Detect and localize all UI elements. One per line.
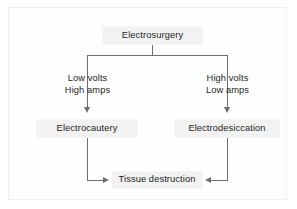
- node-electrodesiccation-label: Electrodesiccation: [188, 124, 265, 133]
- arrowhead-right-branch-icon: [224, 107, 230, 113]
- node-tissue-destruction-label: Tissue destruction: [119, 175, 196, 184]
- edge-label-right-line1: High volts: [180, 72, 275, 84]
- node-electrosurgery-label: Electrosurgery: [122, 31, 183, 40]
- connector-left-to-outcome: [87, 180, 104, 181]
- node-electrosurgery: Electrosurgery: [102, 26, 203, 45]
- arrowhead-left-branch-icon: [84, 107, 90, 113]
- node-tissue-destruction: Tissue destruction: [111, 171, 203, 189]
- connector-split-bar: [87, 55, 228, 56]
- diagram-canvas: Electrosurgery Low volts High amps High …: [0, 0, 297, 209]
- connector-left-drop: [87, 138, 88, 180]
- diagram-frame: Electrosurgery Low volts High amps High …: [8, 7, 287, 200]
- edge-label-right: High volts Low amps: [180, 72, 275, 96]
- node-electrocautery: Electrocautery: [36, 119, 138, 138]
- connector-right-to-outcome: [210, 180, 228, 181]
- edge-label-left: Low volts High amps: [40, 72, 135, 96]
- edge-label-left-line1: Low volts: [40, 72, 135, 84]
- arrowhead-outcome-right-icon: [205, 177, 211, 183]
- arrowhead-outcome-left-icon: [103, 177, 109, 183]
- node-electrodesiccation: Electrodesiccation: [174, 119, 280, 138]
- node-electrocautery-label: Electrocautery: [57, 124, 118, 133]
- edge-label-left-line2: High amps: [40, 84, 135, 96]
- edge-label-right-line2: Low amps: [180, 84, 275, 96]
- connector-right-drop: [227, 138, 228, 180]
